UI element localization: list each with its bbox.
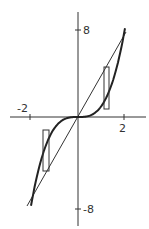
y-tick-label-pos8: 8 [83, 24, 90, 37]
strip-rectangle-right [104, 67, 109, 109]
chart: -2 2 8 -8 [0, 0, 149, 229]
y-tick-label-neg8: -8 [83, 203, 94, 216]
x-tick-label-neg2: -2 [17, 102, 28, 115]
line-series [27, 32, 126, 206]
x-tick-label-pos2: 2 [119, 122, 126, 135]
